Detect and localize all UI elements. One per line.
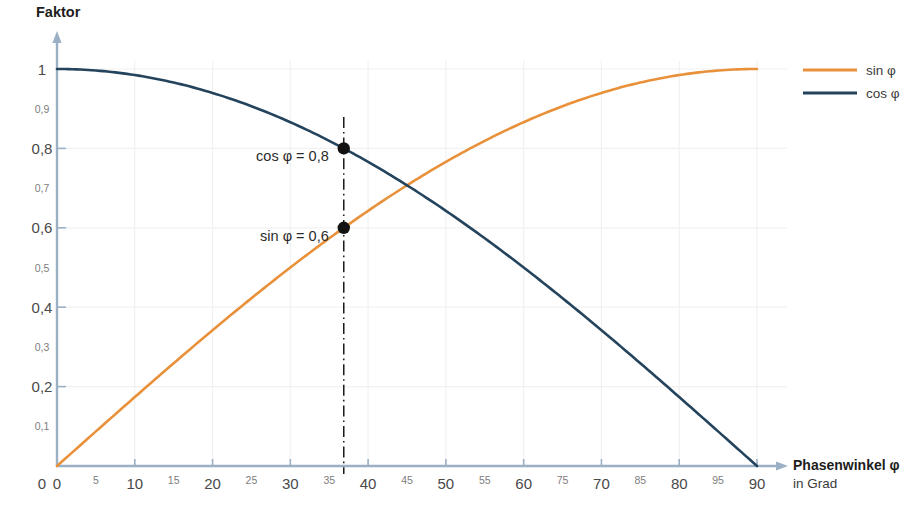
legend-label: cos φ	[866, 86, 900, 101]
x-tick-label-major: 30	[282, 475, 299, 492]
legend: sin φcos φ	[803, 63, 900, 101]
tick-marks	[57, 69, 757, 466]
gridlines	[57, 61, 787, 466]
y-tick-label-minor: 0,3	[35, 341, 50, 353]
x-tick-label-minor: 55	[479, 474, 491, 486]
y-tick-label-major: 1	[38, 61, 46, 78]
x-tick-label-major: 60	[515, 475, 532, 492]
y-tick-label-minor: 0,5	[35, 262, 50, 274]
x-axis-title: Phasenwinkel φ	[793, 457, 900, 473]
x-tick-label-minor: 5	[93, 474, 99, 486]
y-tick-label-major: 0,6	[32, 219, 53, 236]
data-point-marker	[338, 222, 350, 234]
annotation-labels: cos φ = 0,8sin φ = 0,6	[256, 148, 329, 243]
sin-cos-plot: 010203040506070809051525354555758595 00,…	[0, 0, 923, 509]
x-tick-label-minor: 15	[168, 474, 180, 486]
chart-figure: 010203040506070809051525354555758595 00,…	[0, 0, 923, 509]
x-axis-tick-labels: 010203040506070809051525354555758595	[53, 474, 766, 492]
series-line-cos	[57, 69, 757, 466]
x-tick-label-major: 50	[438, 475, 455, 492]
y-tick-label-minor: 0,9	[35, 103, 50, 115]
x-axis-subtitle: in Grad	[793, 476, 837, 491]
x-tick-label-major: 80	[671, 475, 688, 492]
y-axis-tick-labels: 00,20,40,60,810,10,30,50,70,9	[32, 61, 53, 493]
data-point-marker	[338, 142, 350, 154]
x-tick-label-major: 70	[593, 475, 610, 492]
y-tick-label-major: 0,2	[32, 378, 53, 395]
y-tick-label-major: 0	[38, 475, 46, 492]
x-tick-label-major: 20	[204, 475, 221, 492]
x-tick-label-minor: 45	[401, 474, 413, 486]
x-tick-label-minor: 25	[246, 474, 258, 486]
y-tick-label-minor: 0,1	[35, 420, 50, 432]
x-tick-label-minor: 75	[557, 474, 569, 486]
y-axis-title: Faktor	[36, 4, 81, 20]
x-tick-label-minor: 95	[712, 474, 724, 486]
x-tick-label-minor: 35	[323, 474, 335, 486]
x-tick-label-major: 40	[360, 475, 377, 492]
y-tick-label-major: 0,4	[32, 299, 53, 316]
y-tick-label-minor: 0,7	[35, 182, 50, 194]
x-tick-label-minor: 85	[634, 474, 646, 486]
annotation-label: sin φ = 0,6	[260, 228, 329, 244]
axes	[52, 31, 788, 471]
annotation-label: cos φ = 0,8	[256, 148, 329, 164]
series-line-sin	[57, 69, 757, 466]
x-tick-label-major: 0	[53, 475, 61, 492]
legend-label: sin φ	[866, 63, 896, 78]
x-tick-label-major: 10	[126, 475, 143, 492]
x-tick-label-major: 90	[749, 475, 766, 492]
y-tick-label-major: 0,8	[32, 140, 53, 157]
data-series	[57, 69, 757, 466]
